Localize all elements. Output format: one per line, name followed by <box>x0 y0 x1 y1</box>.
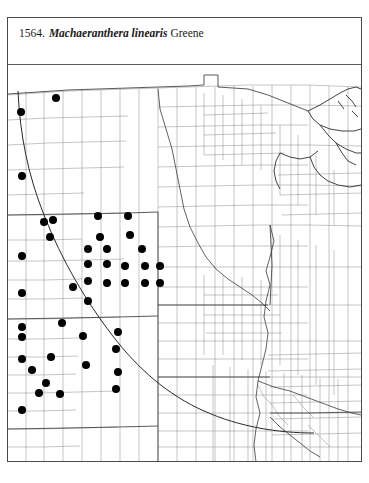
map-canvas <box>8 65 361 461</box>
occurrence-dot <box>49 216 57 224</box>
occurrence-dot <box>156 279 164 287</box>
plate-number: 1564. <box>19 27 45 39</box>
occurrence-dot <box>141 262 149 270</box>
occurrence-dot <box>82 361 90 369</box>
occurrence-dot <box>79 332 87 340</box>
occurrence-dot <box>18 172 26 180</box>
county-boundaries <box>8 85 361 461</box>
range-limit-line <box>18 91 314 433</box>
occurrence-dot <box>28 366 36 374</box>
occurrence-dot <box>124 212 132 220</box>
occurrence-dot <box>114 328 122 336</box>
occurrence-dot <box>18 333 26 341</box>
occurrence-dot <box>69 283 77 291</box>
occurrence-dot <box>126 231 134 239</box>
occurrence-dot <box>18 406 26 414</box>
occurrence-dot <box>112 345 120 353</box>
occurrence-dot <box>58 319 66 327</box>
occurrence-dot <box>103 260 111 268</box>
occurrence-dot <box>84 245 92 253</box>
occurrence-dot <box>114 368 122 376</box>
occurrence-dot <box>121 262 129 270</box>
occurrence-dot <box>141 279 149 287</box>
occurrence-dot <box>18 355 26 363</box>
occurrence-dot <box>94 212 102 220</box>
occurrence-dot <box>112 385 120 393</box>
occurrence-dot <box>47 353 55 361</box>
state-boundaries <box>8 75 361 461</box>
occurrence-dot <box>96 233 104 241</box>
occurrence-dot <box>46 233 54 241</box>
occurrence-dot <box>35 389 43 397</box>
occurrence-dot <box>18 289 26 297</box>
occurrence-dot <box>17 108 25 116</box>
occurrence-dot <box>40 218 48 226</box>
occurrence-dot <box>56 390 64 398</box>
distribution-map <box>8 64 361 461</box>
occurrence-dot <box>42 379 50 387</box>
occurrence-dot <box>84 277 92 285</box>
occurrence-dot <box>18 323 26 331</box>
occurrence-dot <box>84 297 92 305</box>
occurrence-dot <box>103 279 111 287</box>
occurrence-dot <box>52 94 60 102</box>
occurrence-dot <box>121 279 129 287</box>
plate-caption: 1564.Machaeranthera linearisGreene <box>8 18 361 64</box>
plate-page: 1564.Machaeranthera linearisGreene <box>0 0 369 483</box>
occurrence-dot <box>84 260 92 268</box>
taxon-name: Machaeranthera linearis <box>45 27 168 39</box>
taxon-authority: Greene <box>167 27 203 39</box>
occurrence-dot <box>138 245 146 253</box>
occurrence-dot <box>103 245 111 253</box>
occurrence-dot <box>18 252 26 260</box>
occurrence-dot <box>156 262 164 270</box>
